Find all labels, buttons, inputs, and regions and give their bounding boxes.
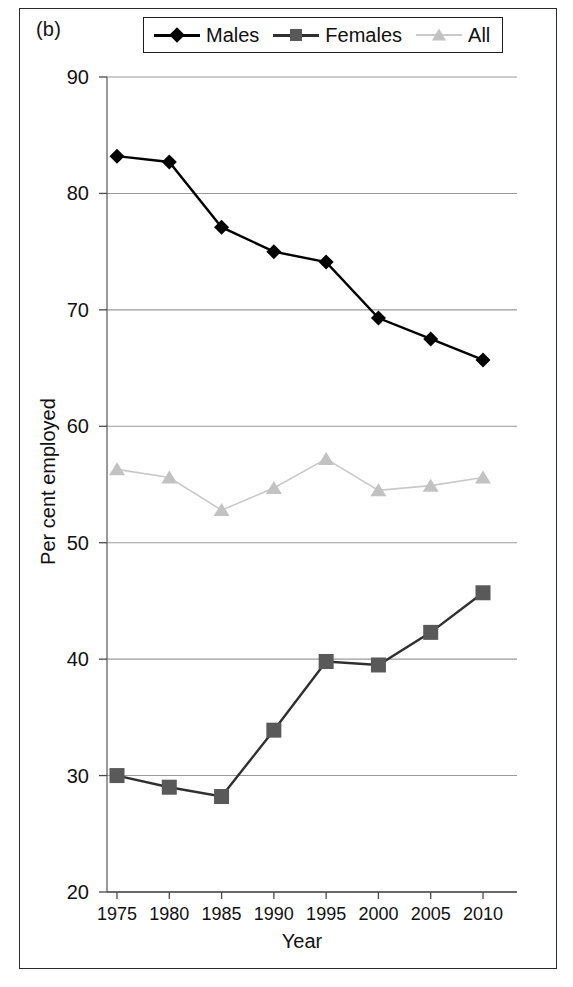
data-point (371, 657, 386, 672)
data-point (318, 452, 334, 465)
series-line (117, 593, 483, 797)
data-point (423, 331, 438, 346)
figure-panel: (b) MalesFemalesAll 9080706050403020 197… (0, 0, 573, 987)
data-point (266, 244, 281, 259)
y-tick-label: 30 (49, 764, 89, 787)
data-point (476, 352, 491, 367)
x-tick-label: 1990 (254, 904, 294, 925)
series-line (117, 156, 483, 360)
y-tick-label: 90 (49, 66, 89, 89)
y-tick-label: 40 (49, 648, 89, 671)
data-point (266, 723, 281, 738)
series-all (109, 452, 491, 516)
chart-canvas (0, 0, 573, 987)
y-axis-title: Per cent employed (37, 372, 60, 592)
data-point (214, 503, 230, 516)
x-tick-label: 1975 (97, 904, 137, 925)
x-tick-label: 1980 (149, 904, 189, 925)
x-tick-label: 2010 (463, 904, 503, 925)
data-point (476, 585, 491, 600)
data-point (110, 149, 125, 164)
data-point (109, 462, 125, 475)
data-point (110, 768, 125, 783)
series-females (110, 585, 491, 804)
series-males (110, 149, 491, 368)
data-point (319, 654, 334, 669)
data-point (423, 625, 438, 640)
y-tick-label: 70 (49, 298, 89, 321)
data-point (162, 780, 177, 795)
data-point (214, 789, 229, 804)
x-tick-label: 1995 (306, 904, 346, 925)
plot-area: 9080706050403020 19751980198519901995200… (0, 0, 573, 987)
y-tick-label: 80 (49, 182, 89, 205)
x-tick-label: 2000 (358, 904, 398, 925)
x-axis-title: Year (117, 930, 487, 953)
x-tick-label: 2005 (411, 904, 451, 925)
data-point (475, 471, 491, 484)
x-tick-label: 1985 (202, 904, 242, 925)
data-point (266, 481, 282, 494)
y-tick-label: 20 (49, 881, 89, 904)
